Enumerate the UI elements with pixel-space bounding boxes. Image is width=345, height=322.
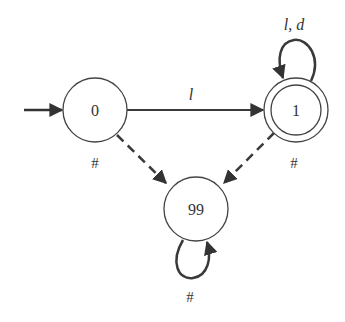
edge-0-to-99: #: [91, 135, 166, 183]
state-0: 0: [63, 78, 127, 142]
edge-label-1-to-99: #: [290, 155, 298, 171]
state-label-0: 0: [91, 102, 99, 119]
state-label-99: 99: [188, 201, 204, 218]
edge-99-self-loop: #: [176, 240, 209, 305]
state-label-1: 1: [292, 102, 300, 119]
dfa-diagram: l l, d # # # 0 1 99: [0, 0, 345, 322]
state-1-accepting: 1: [264, 78, 328, 142]
edge-1-self-loop: l, d: [280, 16, 315, 81]
edge-label-99-loop: #: [186, 289, 194, 305]
edge-label-0-to-1: l: [189, 86, 194, 103]
state-99: 99: [164, 177, 228, 241]
edge-label-1-loop: l, d: [284, 16, 305, 33]
edge-0-to-1: l: [127, 86, 263, 110]
edge-label-0-to-99: #: [91, 155, 99, 171]
